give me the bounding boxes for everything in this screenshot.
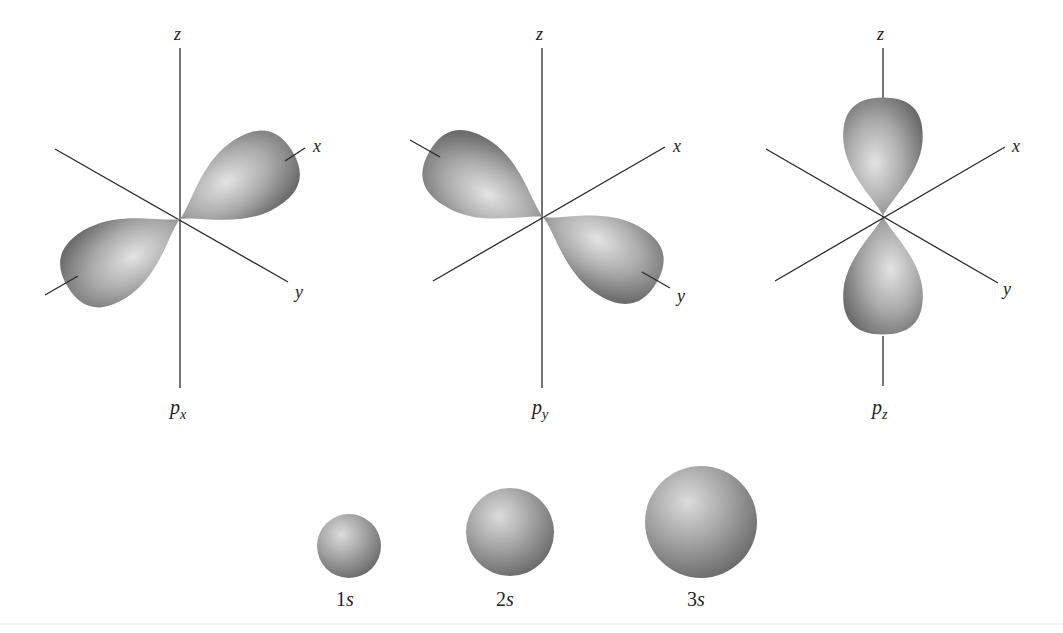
y-axis-label: y bbox=[1001, 279, 1011, 299]
z-axis-label: z bbox=[173, 24, 181, 44]
orbital-2s-caption: 2s bbox=[496, 588, 514, 610]
y-axis-label: y bbox=[293, 282, 303, 302]
s-orbitals: 1s 2s 3s bbox=[317, 466, 757, 610]
orbital-1s-caption: 1s bbox=[336, 588, 354, 610]
px-lobe-positive bbox=[160, 117, 313, 253]
pz-caption: pz bbox=[870, 396, 888, 422]
z-axis-label: z bbox=[535, 24, 543, 44]
z-axis-label: z bbox=[876, 24, 884, 44]
orbital-3s-sphere bbox=[645, 466, 757, 578]
py-lobe-positive bbox=[523, 183, 676, 317]
pz-lobe-positive bbox=[843, 98, 923, 216]
py-caption: py bbox=[530, 396, 549, 422]
px-caption: px bbox=[168, 396, 187, 422]
py-lobe-negative bbox=[409, 117, 562, 251]
pz-orbital: z x y pz bbox=[766, 24, 1020, 422]
orbital-1s-sphere bbox=[317, 514, 381, 578]
x-axis-label: x bbox=[312, 136, 321, 156]
orbital-diagram: z x y px z x y py bbox=[0, 0, 1063, 633]
px-lobe-negative bbox=[47, 185, 200, 321]
py-orbital: z x y py bbox=[409, 24, 685, 422]
px-orbital: z x y px bbox=[45, 24, 321, 422]
y-axis-label: y bbox=[675, 286, 685, 306]
x-axis-label: x bbox=[1011, 136, 1020, 156]
x-axis-label: x bbox=[672, 136, 681, 156]
orbital-2s-sphere bbox=[466, 488, 554, 576]
orbital-3s-caption: 3s bbox=[687, 588, 705, 610]
